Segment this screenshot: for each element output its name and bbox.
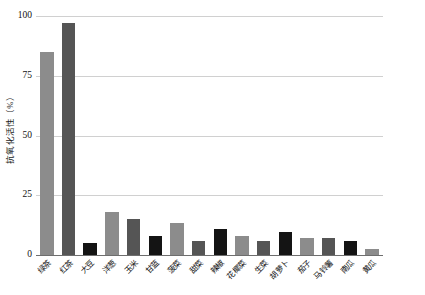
x-axis-tick-label-slot: 南瓜: [340, 256, 362, 295]
x-axis-tick-label: 生菜: [252, 258, 270, 276]
bar-slot: [214, 16, 227, 255]
bar-series: [36, 16, 383, 255]
x-axis-tick-label: 洋葱: [101, 258, 119, 276]
bar-slot: [149, 16, 162, 255]
x-axis-tick-label-slot: 甘蓝: [144, 256, 166, 295]
bar[interactable]: [83, 243, 96, 255]
y-axis-tick-label: 25: [2, 190, 32, 200]
bar-slot: [235, 16, 248, 255]
x-axis-tick-label-slot: 花椰菜: [231, 256, 253, 295]
x-axis-tick-label-slot: 胡萝卜: [275, 256, 297, 295]
x-axis-tick-label: 绿茶: [36, 258, 54, 276]
bar-slot: [127, 16, 140, 255]
bar[interactable]: [300, 238, 313, 255]
bar[interactable]: [127, 219, 140, 255]
x-axis-tick-label: 甜菜: [187, 258, 205, 276]
x-axis-tick-label-slot: 马铃薯: [318, 256, 340, 295]
y-axis-tick-label: 75: [2, 71, 32, 81]
x-axis-tick-label-slot: 洋葱: [101, 256, 123, 295]
x-axis-tick-label: 甘蓝: [144, 258, 162, 276]
bar[interactable]: [279, 232, 292, 255]
bar[interactable]: [149, 236, 162, 255]
bar[interactable]: [170, 223, 183, 255]
y-axis-tick-labels: 0255075100: [0, 0, 32, 295]
x-axis-tick-labels: 绿茶红茶大豆洋葱玉米甘蓝菠菜甜菜辣椒花椰菜生菜胡萝卜茄子马铃薯南瓜黄瓜: [36, 256, 383, 295]
antioxidant-activity-bar-chart: 抗氧化活性（%） 0255075100 绿茶红茶大豆洋葱玉米甘蓝菠菜甜菜辣椒花椰…: [0, 0, 425, 295]
bar[interactable]: [62, 23, 75, 255]
bar-slot: [83, 16, 96, 255]
bar[interactable]: [344, 241, 357, 255]
x-axis-tick-label-slot: 绿茶: [36, 256, 58, 295]
bar-slot: [300, 16, 313, 255]
x-axis-tick-label: 黄瓜: [361, 258, 379, 276]
x-axis-tick-label-slot: 大豆: [79, 256, 101, 295]
x-axis-tick-label: 红茶: [57, 258, 75, 276]
y-axis-tick-label: 0: [2, 250, 32, 260]
x-axis-tick-label: 玉米: [122, 258, 140, 276]
x-axis-tick-label: 茄子: [296, 258, 314, 276]
bar-slot: [365, 16, 378, 255]
bar[interactable]: [322, 238, 335, 255]
bar-slot: [279, 16, 292, 255]
x-axis-tick-label-slot: 菠菜: [166, 256, 188, 295]
bar[interactable]: [257, 241, 270, 255]
bar[interactable]: [105, 212, 118, 255]
bar-slot: [62, 16, 75, 255]
x-axis-tick-label-slot: 红茶: [58, 256, 80, 295]
bar-slot: [105, 16, 118, 255]
bar[interactable]: [40, 52, 53, 255]
x-axis-tick-label: 菠菜: [166, 258, 184, 276]
bar-slot: [344, 16, 357, 255]
x-axis-tick-label-slot: 玉米: [123, 256, 145, 295]
x-axis-tick-label-slot: 黄瓜: [361, 256, 383, 295]
bar-slot: [40, 16, 53, 255]
bar[interactable]: [214, 229, 227, 255]
bar-slot: [322, 16, 335, 255]
bar-slot: [192, 16, 205, 255]
bar-slot: [257, 16, 270, 255]
bar[interactable]: [365, 249, 378, 255]
x-axis-tick-label: 大豆: [79, 258, 97, 276]
bar[interactable]: [235, 236, 248, 255]
x-axis-tick-label-slot: 甜菜: [188, 256, 210, 295]
x-axis-tick-label: 南瓜: [339, 258, 357, 276]
bar-slot: [170, 16, 183, 255]
y-axis-tick-label: 50: [2, 131, 32, 141]
x-axis-tick-label: 辣椒: [209, 258, 227, 276]
bar[interactable]: [192, 241, 205, 255]
y-axis-tick-label: 100: [2, 11, 32, 21]
